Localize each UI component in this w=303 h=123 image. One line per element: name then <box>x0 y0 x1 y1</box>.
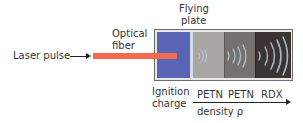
density-arrow-line <box>193 102 286 103</box>
petn-low-density-label: PETN <box>197 89 223 100</box>
optical-fiber-label-line2: fiber <box>112 40 135 51</box>
ignition-charge-label-line2: charge <box>152 98 186 109</box>
laser-arrow-line <box>70 56 86 57</box>
rdx-label: RDX <box>261 89 283 100</box>
laser-pulse-label: Laser pulse <box>13 50 70 61</box>
flying-plate-label-line2: plate <box>181 15 206 26</box>
laser-arrow-head-icon <box>86 53 91 59</box>
optical-fiber <box>93 53 177 59</box>
flying-plate-label-line1: Flying <box>179 3 209 14</box>
petn-high-density-label: PETN <box>228 89 254 100</box>
ignition-charge-label-line1: Ignition <box>152 86 190 97</box>
optical-fiber-label-line1: Optical <box>112 28 147 39</box>
density-label: density ρ <box>197 106 243 117</box>
density-arrow-head-icon <box>286 99 291 105</box>
